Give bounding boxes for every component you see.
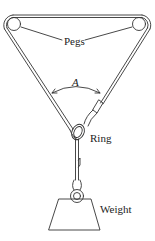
pegs-leader-left	[21, 27, 62, 40]
weight-eye	[71, 190, 84, 203]
left-peg	[8, 18, 21, 31]
pegs-ring-weight-diagram: Pegs A Ring Weight	[0, 0, 155, 241]
hanger-rod	[73, 139, 82, 190]
right-peg	[133, 18, 146, 31]
rope-clip	[84, 100, 103, 126]
weight-block	[49, 199, 100, 230]
angle-label: A	[71, 76, 79, 88]
rope	[4, 15, 151, 130]
pegs-label: Pegs	[64, 35, 85, 47]
weight-label: Weight	[100, 203, 132, 215]
ring	[69, 122, 87, 142]
ring-label: Ring	[90, 132, 112, 144]
pegs-leader-right	[85, 27, 132, 40]
